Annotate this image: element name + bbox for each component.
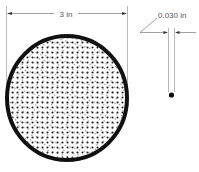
fiber-arrow-left-icon [164,31,169,34]
fiber-bundle-diagram: 3 in 0.030 in [0,0,199,172]
fiber-end-dot [169,92,174,97]
arrow-left-icon [7,12,12,15]
fiber-diameter-label: 0.030 in [158,11,186,20]
fiber-arrow-right-icon [175,31,180,34]
arrow-right-icon [122,12,127,15]
bundle-diameter-label: 3 in [60,10,73,19]
bundle-cross-section [5,34,129,164]
single-fiber: 0.030 in [140,11,196,98]
leader-line [140,18,157,33]
